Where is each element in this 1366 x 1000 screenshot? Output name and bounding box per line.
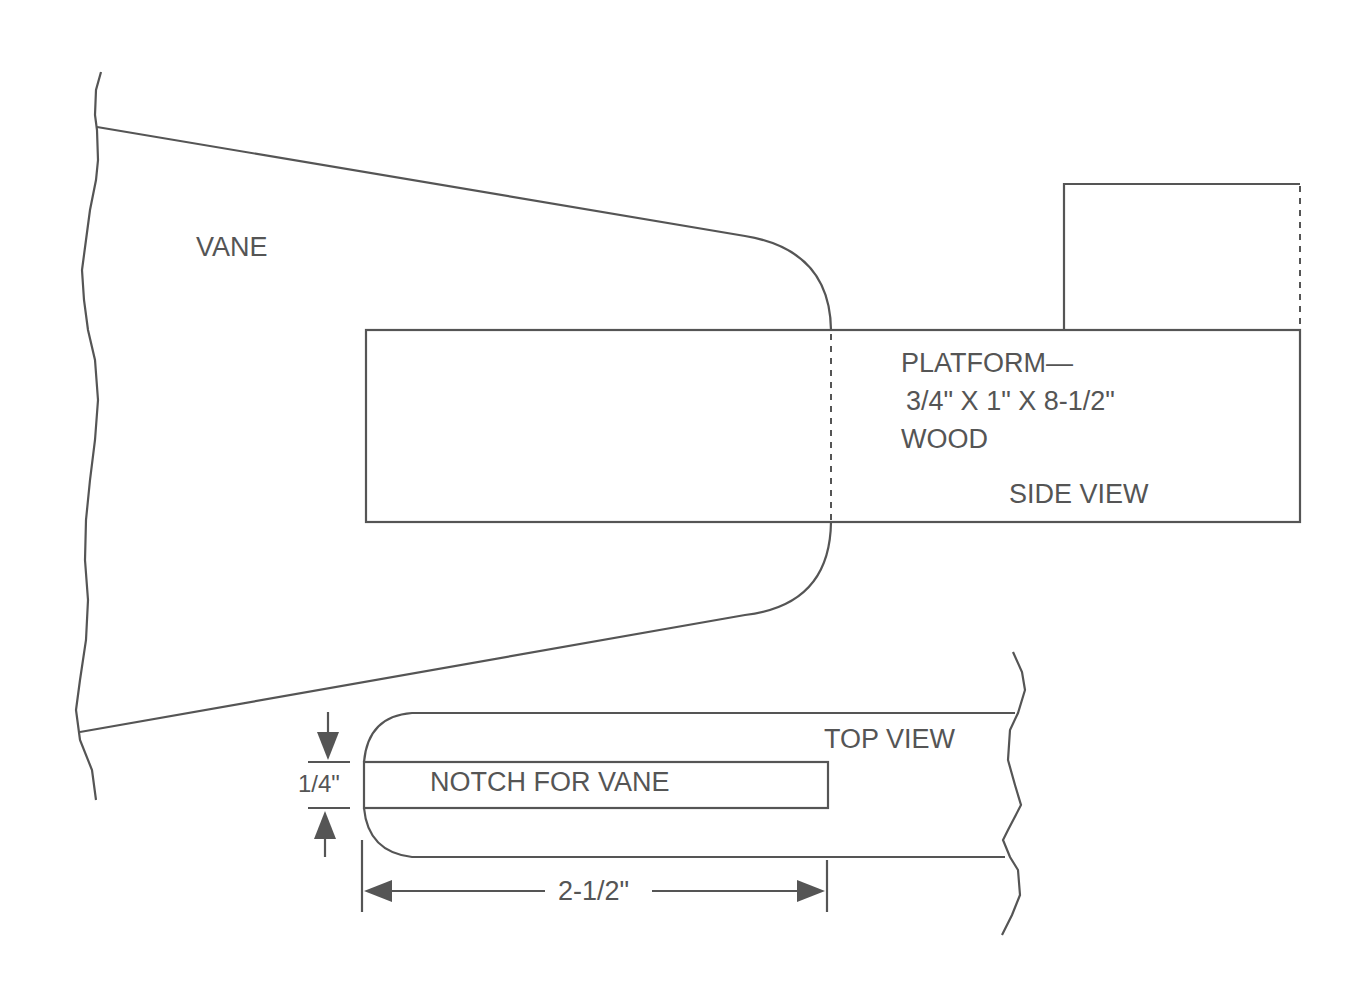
notch-length-label: 2-1/2" [558, 878, 629, 905]
arrow-down-icon [317, 732, 339, 760]
notch-width-label: 1/4" [298, 772, 340, 796]
top-view-break-line [1002, 652, 1025, 935]
arrow-up-icon [314, 811, 336, 839]
platform-title-label: PLATFORM— [901, 350, 1073, 377]
platform-material-label: WOOD [901, 426, 988, 453]
vane-label: VANE [196, 234, 268, 261]
side-view-label: SIDE VIEW [1009, 481, 1149, 508]
vane-break-line [76, 72, 101, 800]
diagram-canvas: VANE PLATFORM— 3/4" X 1" X 8-1/2" WOOD S… [0, 0, 1366, 1000]
upright-block [1064, 184, 1300, 330]
diagram-drawing [0, 0, 1366, 1000]
top-view-label: TOP VIEW [824, 726, 955, 753]
platform-top-view-lower [364, 808, 1005, 857]
vane-outline-lower [80, 522, 831, 732]
notch-label: NOTCH FOR VANE [430, 769, 670, 796]
arrow-left-icon [364, 880, 392, 902]
vane-outline [97, 127, 831, 330]
platform-side-view [366, 330, 1300, 522]
platform-dims-label: 3/4" X 1" X 8-1/2" [906, 388, 1115, 415]
arrow-right-icon [797, 880, 825, 902]
